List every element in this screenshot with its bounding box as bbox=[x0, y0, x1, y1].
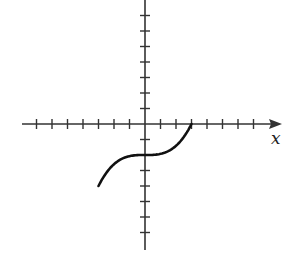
coordinate-plane bbox=[0, 0, 282, 259]
x-axis-label: x bbox=[271, 128, 281, 148]
axes bbox=[22, 0, 282, 250]
